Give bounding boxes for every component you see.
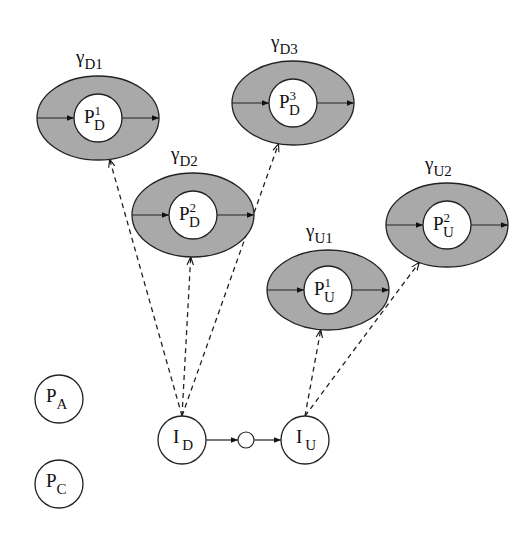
gamma-label: γD2 xyxy=(170,143,198,169)
gamma-label: γU2 xyxy=(424,153,452,179)
regions: P1DγD1P3DγD3P2DγD2P1UγU1P2UγU2 xyxy=(37,31,508,330)
region-u1: P1UγU1 xyxy=(267,220,389,330)
node-pc: PC xyxy=(35,460,83,508)
dashed-edge-iu-to-u1 xyxy=(305,330,321,416)
gamma-label: γU1 xyxy=(305,220,333,246)
node-id: ID xyxy=(158,416,206,464)
node-pa: PA xyxy=(35,375,83,423)
junction-node xyxy=(238,432,254,448)
nodes: PAPCIDIU xyxy=(35,375,329,508)
gamma-label: γD1 xyxy=(75,46,103,72)
dashed-edge-id-to-d2 xyxy=(182,257,191,416)
region-d3: P3DγD3 xyxy=(232,31,354,145)
region-u2: P2UγU2 xyxy=(386,153,508,267)
region-d1: P1DγD1 xyxy=(37,46,159,160)
gamma-label: γD3 xyxy=(270,31,298,57)
node-iu: IU xyxy=(281,416,329,464)
region-d2: P2DγD2 xyxy=(132,143,254,257)
diagram-canvas: P1DγD1P3DγD3P2DγD2P1UγU1P2UγU2 PAPCIDIU xyxy=(0,0,532,535)
